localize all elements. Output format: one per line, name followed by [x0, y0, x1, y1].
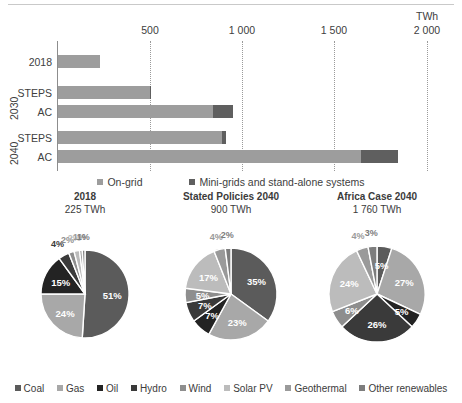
pie-title-africa-2040: Africa Case 2040: [300, 190, 454, 203]
pie-subtitle-steps-2040: 900 TWh: [154, 203, 308, 216]
bar-2040-ac-on-grid: [58, 150, 361, 163]
bar-legend-label-mini-grid: Mini-grids and stand-alone systems: [199, 176, 364, 188]
x-tick-2000: 2 000: [397, 24, 457, 36]
x-tick-1000: 1 000: [212, 24, 272, 36]
gridline-2000: [427, 41, 428, 171]
legend-item-coal: Coal: [15, 383, 45, 394]
bar-2018: [58, 55, 100, 68]
solar-pv-swatch-icon: [224, 385, 230, 391]
pie-title-2018: 2018: [8, 190, 162, 203]
pie-wrap-africa-2040: 5%27%5%26%6%24%4%3%: [300, 218, 454, 348]
legend-label-oil: Oil: [106, 383, 118, 394]
other-renewables-swatch-icon: [359, 385, 365, 391]
bar-2018-on-grid: [58, 55, 100, 68]
pie-label-hydro: 26%: [367, 318, 386, 329]
legend-item-other-renewables: Other renewables: [359, 383, 447, 394]
bar-chart-legend: On-grid Mini-grids and stand-alone syste…: [0, 176, 462, 188]
legend-item-gas: Gas: [57, 383, 84, 394]
bar-2040-ac: [58, 150, 398, 163]
bar-legend-item-mini-grid: Mini-grids and stand-alone systems: [189, 176, 364, 188]
pie-block-africa-2040: Africa Case 2040 1 760 TWh 5%27%5%26%6%2…: [300, 190, 454, 348]
pie-label-wind: 6%: [345, 304, 359, 315]
mini-grid-swatch-icon: [189, 179, 195, 185]
coal-swatch-icon: [15, 385, 21, 391]
legend-item-solar-pv: Solar PV: [224, 383, 272, 394]
legend-label-hydro: Hydro: [140, 383, 167, 394]
x-tick-500: 500: [120, 24, 180, 36]
bar-chart-unit-label: TWh: [416, 10, 438, 22]
legend-item-geothermal: Geothermal: [285, 383, 346, 394]
pie-label-gas: 27%: [395, 277, 414, 288]
legend-item-hydro: Hydro: [131, 383, 167, 394]
pie-label-hydro: 7%: [198, 300, 212, 311]
pie-label-solar-pv: 24%: [340, 278, 359, 289]
top-divider: [8, 4, 454, 5]
pie-label-oil: 7%: [205, 310, 219, 321]
pie-subtitle-africa-2040: 1 760 TWh: [300, 203, 454, 216]
bar-group-2040: 2040: [8, 142, 20, 165]
on-grid-swatch-icon: [97, 179, 103, 185]
legend-item-oil: Oil: [97, 383, 118, 394]
oil-swatch-icon: [97, 385, 103, 391]
pie-wrap-steps-2040: 35%23%7%7%5%17%4%2%: [154, 218, 308, 348]
pie-wrap-2018: 51%24%15%4%2%2%1%1%: [8, 218, 162, 348]
legend-label-geothermal: Geothermal: [294, 383, 346, 394]
legend-label-solar-pv: Solar PV: [233, 383, 272, 394]
geothermal-swatch-icon: [285, 385, 291, 391]
pie-label-coal: 5%: [375, 259, 389, 270]
pie-block-steps-2040: Stated Policies 2040 900 TWh 35%23%7%7%5…: [154, 190, 308, 348]
pie-label-other-renewables: 2%: [221, 230, 234, 240]
bar-legend-label-on-grid: On-grid: [107, 176, 142, 188]
pie-label-gas: 23%: [228, 316, 247, 327]
pie-label-gas: 24%: [56, 307, 75, 318]
bar-2030-ac: [58, 105, 233, 118]
bar-legend-item-on-grid: On-grid: [97, 176, 142, 188]
bar-chart: TWh 500 1 000 1 500 2 000 2018 STEPS AC …: [0, 8, 462, 188]
pie-label-coal: 35%: [247, 276, 266, 287]
gas-swatch-icon: [57, 385, 63, 391]
bar-2040-steps: [58, 131, 226, 144]
pie-title-steps-2040: Stated Policies 2040: [154, 190, 308, 203]
bar-2040-ac-mini-grid: [361, 150, 398, 163]
pie-label-coal: 51%: [103, 289, 122, 300]
bar-2040-steps-mini-grid: [222, 131, 226, 144]
wind-swatch-icon: [180, 385, 186, 391]
bar-2030-steps-on-grid: [58, 86, 150, 99]
bar-2030-steps-mini-grid: [150, 86, 151, 99]
pie-label-solar-pv: 17%: [199, 271, 218, 282]
legend-label-coal: Coal: [24, 383, 45, 394]
bar-group-2030: 2030: [8, 97, 20, 120]
pie-label-other-renewables: 1%: [77, 232, 90, 242]
pie-label-wind: 5%: [196, 289, 210, 300]
pie-chart-row: 2018 225 TWh 51%24%15%4%2%2%1%1% Stated …: [0, 190, 462, 355]
legend-item-wind: Wind: [180, 383, 212, 394]
bar-2030-ac-mini-grid: [213, 105, 233, 118]
fuel-legend: Coal Gas Oil Hydro Wind Solar PV Geother…: [0, 383, 462, 394]
pie-label-geothermal: 4%: [352, 231, 365, 241]
hydro-swatch-icon: [131, 385, 137, 391]
bar-2030-steps: [58, 86, 151, 99]
bar-2040-steps-on-grid: [58, 131, 222, 144]
bar-2030-ac-on-grid: [58, 105, 213, 118]
pie-label-oil: 15%: [51, 276, 70, 287]
legend-label-gas: Gas: [66, 383, 84, 394]
pie-subtitle-2018: 225 TWh: [8, 203, 162, 216]
pie-block-2018: 2018 225 TWh 51%24%15%4%2%2%1%1%: [8, 190, 162, 348]
legend-label-other-renewables: Other renewables: [368, 383, 447, 394]
pie-label-other-renewables: 3%: [365, 228, 378, 238]
bar-cat-2018: 2018: [0, 56, 52, 68]
x-tick-1500: 1 500: [304, 24, 364, 36]
legend-label-wind: Wind: [189, 383, 212, 394]
pie-label-oil: 5%: [395, 305, 409, 316]
